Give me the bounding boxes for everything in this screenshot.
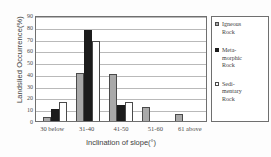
legend-label: Sedi-mentaryRock	[222, 81, 242, 104]
legend-label: Meta-morphicRock	[222, 47, 242, 70]
bar-sed	[125, 102, 133, 121]
y-tick-label: 60	[17, 48, 33, 54]
bar-igneous	[76, 73, 84, 121]
x-tick-label: 31-40	[70, 125, 104, 132]
bar-meta	[84, 30, 92, 121]
bar-group	[175, 17, 199, 121]
x-axis-tick-labels: 30 below31-4041-5051-6061 above	[35, 125, 207, 132]
plot-area	[35, 16, 207, 122]
y-tick-label: 20	[17, 95, 33, 101]
bar-group	[76, 17, 100, 121]
legend-entry[interactable]: Meta-morphicRock	[215, 47, 266, 70]
legend-label: IgneousRock	[222, 21, 241, 36]
legend-entry[interactable]: Sedi-mentaryRock	[215, 81, 266, 104]
x-tick-label: 61 above	[173, 125, 207, 132]
y-axis-tick-labels: 0102030405060708090	[17, 16, 33, 122]
bar-igneous	[109, 74, 117, 121]
bar-group	[142, 17, 166, 121]
bar-group	[43, 17, 67, 121]
y-tick-label: 30	[17, 84, 33, 90]
legend-entry[interactable]: IgneousRock	[215, 21, 266, 36]
y-tick-label: 70	[17, 37, 33, 43]
bar-igneous	[43, 117, 51, 121]
legend-swatch-sed	[215, 82, 219, 86]
bar-group	[109, 17, 133, 121]
y-tick-label: 0	[17, 119, 33, 125]
y-tick-label: 80	[17, 25, 33, 31]
bar-meta	[117, 105, 125, 121]
y-tick-label: 40	[17, 72, 33, 78]
bar-igneous	[175, 114, 183, 121]
x-axis-title: Inclination of slope(°)	[35, 138, 207, 147]
bar-chart-figure: Landslied Occurrence(%) 0102030405060708…	[0, 0, 271, 157]
bar-meta	[51, 109, 59, 121]
x-tick-label: 41-50	[104, 125, 138, 132]
legend-swatch-meta	[215, 48, 219, 52]
x-tick-label: 51-60	[138, 125, 172, 132]
bar-groups	[36, 17, 206, 121]
y-tick-label: 90	[17, 13, 33, 19]
y-tick-label: 50	[17, 60, 33, 66]
bar-igneous	[142, 107, 150, 121]
x-tick-label: 30 below	[35, 125, 69, 132]
chart-legend: IgneousRockMeta-morphicRockSedi-mentaryR…	[211, 16, 269, 122]
bar-sed	[59, 102, 67, 121]
y-tick-label: 10	[17, 107, 33, 113]
legend-swatch-igneous	[215, 22, 219, 26]
bar-sed	[92, 41, 100, 121]
